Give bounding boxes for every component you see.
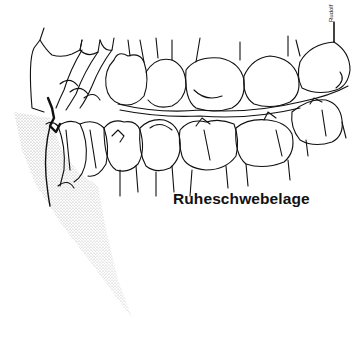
figure-label: Ruheschwebelage [173,190,310,208]
dental-illustration [0,0,362,339]
upper-anterior-teeth [30,28,114,112]
soft-tissue-stipple [14,112,132,318]
upper-premolars [106,38,186,107]
upper-molars [118,22,350,117]
artist-signature: Rudolf [328,5,334,22]
lower-premolars [104,120,180,196]
lower-molars [179,98,346,196]
